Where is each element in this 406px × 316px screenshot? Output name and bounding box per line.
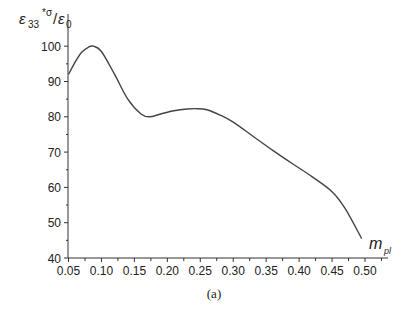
svg-text:*σ: *σ: [42, 7, 53, 18]
x-axis: 0.050.100.150.200.250.300.350.400.450.50: [57, 258, 388, 278]
x-tick-label: 0.35: [254, 264, 278, 278]
x-tick-label: 0.40: [287, 264, 311, 278]
chart: 405060708090100 0.050.100.150.200.250.30…: [0, 0, 406, 316]
y-tick-label: 50: [48, 216, 62, 230]
x-tick-label: 0.30: [222, 264, 246, 278]
x-tick-label: 0.45: [320, 264, 344, 278]
x-tick-label: 0.25: [189, 264, 213, 278]
data-line: [69, 46, 362, 239]
svg-text:33: 33: [28, 19, 40, 30]
figure-caption: (a): [207, 286, 221, 301]
y-tick-label: 70: [48, 146, 62, 160]
y-axis: 405060708090100: [41, 14, 68, 266]
x-tick-label: 0.05: [57, 264, 81, 278]
svg-text:pl: pl: [383, 246, 392, 256]
y-tick-label: 80: [48, 110, 62, 124]
y-tick-label: 60: [48, 181, 62, 195]
svg-text:ε: ε: [58, 10, 65, 27]
x-tick-label: 0.20: [156, 264, 180, 278]
svg-text:ε: ε: [19, 10, 26, 27]
y-tick-label: 100: [41, 40, 61, 54]
x-axis-label: m pl: [369, 235, 392, 256]
svg-text:0: 0: [66, 19, 72, 30]
x-tick-label: 0.50: [353, 264, 377, 278]
x-tick-label: 0.15: [123, 264, 147, 278]
svg-text:m: m: [369, 235, 382, 252]
y-axis-label: ε 33 *σ / ε 0: [19, 7, 72, 30]
y-tick-label: 90: [48, 75, 62, 89]
x-tick-label: 0.10: [90, 264, 114, 278]
